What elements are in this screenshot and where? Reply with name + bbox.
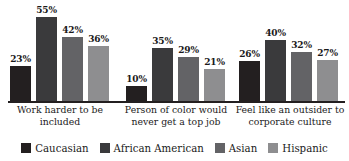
bar-chart: 23% 55% 42% 36% 10% 35% — [0, 0, 349, 161]
category-label-line: Person of color would — [118, 104, 234, 116]
bar — [126, 86, 147, 101]
bar-slot: 21% — [204, 2, 225, 101]
bar-slot: 27% — [317, 2, 338, 101]
bar-value-label: 21% — [204, 57, 224, 67]
bar-slot: 40% — [265, 2, 286, 101]
bar-group-never-top-job: 10% 35% 29% 21% — [124, 2, 228, 101]
category-label-line: corporate culture — [232, 116, 348, 128]
bar-value-label: 42% — [62, 25, 82, 35]
bar-value-label: 26% — [239, 49, 259, 59]
legend-swatch-icon — [100, 143, 110, 153]
bar-slot: 23% — [10, 2, 31, 101]
legend-item-hispanic[interactable]: Hispanic — [268, 143, 328, 154]
chart-legend: Caucasian African American Asian Hispani… — [0, 138, 349, 158]
legend-swatch-icon — [268, 143, 278, 153]
bar-slot: 10% — [126, 2, 147, 101]
legend-label: African American — [114, 143, 204, 154]
bar-slot: 26% — [239, 2, 260, 101]
category-label-work-harder: Work harder to be included — [4, 104, 116, 128]
category-label-line: Feel like an outsider to — [232, 104, 348, 116]
bar-value-label: 27% — [317, 48, 337, 58]
bar — [317, 60, 338, 101]
bar — [62, 37, 83, 101]
bar-value-label: 10% — [126, 74, 146, 84]
bar-value-label: 55% — [36, 5, 56, 15]
legend-swatch-icon — [21, 143, 31, 153]
bar-value-label: 40% — [265, 28, 285, 38]
bar — [88, 46, 109, 101]
x-axis-line — [8, 101, 345, 103]
bar-value-label: 32% — [291, 40, 311, 50]
bar-value-label: 36% — [88, 34, 108, 44]
legend-label: Asian — [229, 143, 257, 154]
legend-item-asian[interactable]: Asian — [215, 143, 257, 154]
bar-slot: 32% — [291, 2, 312, 101]
category-axis-labels: Work harder to be included Person of col… — [0, 104, 349, 134]
category-label-outsider: Feel like an outsider to corporate cultu… — [232, 104, 348, 128]
bar-slot: 29% — [178, 2, 199, 101]
bar-slot: 36% — [88, 2, 109, 101]
bar-slot: 35% — [152, 2, 173, 101]
bar — [265, 40, 286, 101]
bar — [239, 61, 260, 101]
legend-item-caucasian[interactable]: Caucasian — [21, 143, 88, 154]
category-label-never-top-job: Person of color would never get a top jo… — [118, 104, 234, 128]
plot-area: 23% 55% 42% 36% 10% 35% — [0, 0, 349, 103]
bar-slot: 42% — [62, 2, 83, 101]
bar-group-outsider: 26% 40% 32% 27% — [237, 2, 341, 101]
bar-value-label: 23% — [10, 54, 30, 64]
bar — [178, 57, 199, 101]
legend-label: Hispanic — [282, 143, 328, 154]
bar — [10, 66, 31, 101]
legend-item-african-american[interactable]: African American — [100, 143, 204, 154]
bar-value-label: 29% — [178, 45, 198, 55]
bar-value-label: 35% — [152, 36, 172, 46]
bar — [152, 48, 173, 101]
legend-label: Caucasian — [35, 143, 88, 154]
bar — [36, 17, 57, 101]
bar-group-work-harder: 23% 55% 42% 36% — [8, 2, 112, 101]
category-label-line: never get a top job — [118, 116, 234, 128]
bar — [204, 69, 225, 101]
category-label-line: included — [4, 116, 116, 128]
bar-slot: 55% — [36, 2, 57, 101]
category-label-line: Work harder to be — [4, 104, 116, 116]
bar — [291, 52, 312, 101]
legend-swatch-icon — [215, 143, 225, 153]
